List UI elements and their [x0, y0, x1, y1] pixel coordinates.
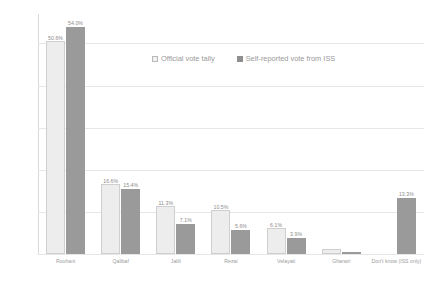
category-label: Rezai	[203, 258, 258, 265]
bar-group: 11.3%7.1%	[148, 14, 203, 254]
bar-value-label: 5.6%	[235, 223, 247, 229]
legend-swatch-official-icon	[152, 56, 158, 62]
legend-item-official: Official vote tally	[152, 54, 215, 63]
bar-self-reported: 13.3%	[397, 198, 416, 254]
category-label: Qalibaf	[93, 258, 148, 265]
bar-official	[322, 249, 341, 254]
bar-value-label: 7.1%	[180, 217, 192, 223]
bar-value-label: 54.0%	[68, 20, 83, 26]
bar-official: 11.3%	[156, 206, 175, 254]
bar-group: 16.6%15.4%	[93, 14, 148, 254]
bar-group: 13.3%	[369, 14, 424, 254]
category-label: Rouhani	[38, 258, 93, 265]
legend-item-self-reported: Self-reported vote from ISS	[237, 54, 336, 63]
plot-area: 50%40%30%20%10%0% 50.6%54.0%16.6%15.4%11…	[38, 14, 424, 254]
bar-self-reported: 15.4%	[121, 189, 140, 254]
bar-group: 6.1%3.9%	[259, 14, 314, 254]
legend-label-self-reported: Self-reported vote from ISS	[246, 54, 336, 63]
bar-self-reported	[342, 252, 361, 254]
bar-official: 6.1%	[267, 228, 286, 254]
bar-self-reported: 5.6%	[231, 230, 250, 254]
bar-value-label: 3.9%	[290, 231, 302, 237]
bar-chart: 50%40%30%20%10%0% 50.6%54.0%16.6%15.4%11…	[0, 0, 431, 295]
category-label: Don't know (ISS only)	[369, 258, 424, 265]
legend-label-official: Official vote tally	[161, 54, 215, 63]
bar-value-label: 16.6%	[103, 178, 118, 184]
bar-group	[314, 14, 369, 254]
bar-official: 10.5%	[211, 210, 230, 254]
bar-value-label: 6.1%	[270, 222, 282, 228]
bar-group: 10.5%5.6%	[203, 14, 258, 254]
bar-value-label: 10.5%	[214, 204, 229, 210]
bar-groups: 50.6%54.0%16.6%15.4%11.3%7.1%10.5%5.6%6.…	[38, 14, 424, 254]
category-axis-labels: RouhaniQalibafJaliliRezaiVelayatiGharazi…	[38, 258, 424, 265]
legend-swatch-self-reported-icon	[237, 56, 243, 62]
bar-self-reported: 54.0%	[66, 27, 85, 254]
gridline	[38, 254, 424, 255]
bar-self-reported: 7.1%	[176, 224, 195, 254]
bar-value-label: 13.3%	[399, 191, 414, 197]
category-label: Velayati	[259, 258, 314, 265]
bar-value-label: 50.6%	[48, 35, 63, 41]
bar-value-label: 11.3%	[159, 200, 174, 206]
bar-group: 50.6%54.0%	[38, 14, 93, 254]
bar-self-reported: 3.9%	[287, 238, 306, 254]
bar-value-label: 15.4%	[123, 182, 138, 188]
bar-official: 16.6%	[101, 184, 120, 254]
category-label: Gharazi	[314, 258, 369, 265]
category-label: Jalili	[148, 258, 203, 265]
bar-official: 50.6%	[46, 41, 65, 254]
chart-legend: Official vote tally Self-reported vote f…	[152, 54, 335, 63]
